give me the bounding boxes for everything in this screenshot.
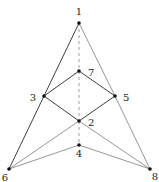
node-4 bbox=[77, 143, 81, 147]
node-label-7: 7 bbox=[88, 67, 94, 78]
node-5 bbox=[113, 94, 117, 98]
edge-1-3 bbox=[44, 23, 79, 96]
labels-group: 17352468 bbox=[2, 6, 158, 182]
node-label-3: 3 bbox=[30, 92, 36, 103]
node-label-6: 6 bbox=[2, 172, 8, 182]
edge-5-2 bbox=[79, 96, 115, 121]
node-label-5: 5 bbox=[123, 92, 129, 103]
edge-3-2 bbox=[44, 96, 79, 121]
edge-4-8 bbox=[79, 145, 150, 169]
node-7 bbox=[77, 69, 81, 73]
edge-7-5 bbox=[79, 71, 115, 96]
node-label-1: 1 bbox=[76, 6, 82, 17]
edge-6-4 bbox=[9, 145, 79, 169]
node-1 bbox=[77, 21, 81, 25]
node-2 bbox=[77, 119, 81, 123]
node-label-4: 4 bbox=[76, 148, 82, 159]
node-3 bbox=[42, 94, 46, 98]
edge-1-5 bbox=[79, 23, 115, 96]
node-label-2: 2 bbox=[88, 117, 94, 128]
edge-2-6 bbox=[9, 121, 79, 169]
node-label-8: 8 bbox=[152, 171, 158, 182]
edge-3-7 bbox=[44, 71, 79, 96]
graph-diagram: 17352468 bbox=[0, 0, 159, 182]
node-6 bbox=[7, 167, 11, 171]
edge-3-6 bbox=[9, 96, 44, 169]
edge-5-8 bbox=[115, 96, 150, 169]
edge-2-8 bbox=[79, 121, 150, 169]
